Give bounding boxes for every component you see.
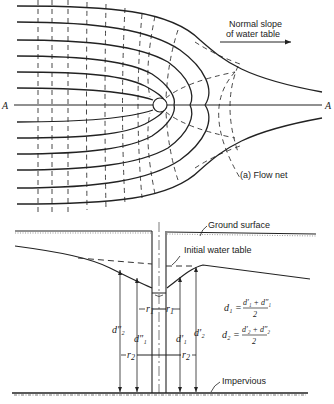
flow-net-panel: A A Normal slope of water table (a) Flow… <box>1 0 332 212</box>
initial-water-table-leader <box>172 256 180 265</box>
svg-text:d₂ =: d₂ = <box>222 329 240 340</box>
depth-arrows <box>118 267 198 392</box>
cross-section-panel: Ground surface Initial water table d″₂ d… <box>12 220 316 395</box>
r1-right-label: r1 <box>166 303 174 316</box>
impervious-label: Impervious <box>222 376 267 386</box>
svg-text:d′₂ + d″₂: d′₂ + d″₂ <box>242 325 270 334</box>
axis-label-left: A <box>1 100 9 111</box>
r1-left-label: r1 <box>146 303 154 316</box>
d1-prime-label: d′₁ <box>176 333 187 344</box>
svg-text:2: 2 <box>253 310 257 319</box>
ground-surface-leader <box>200 226 207 236</box>
initial-water-table-label: Initial water table <box>184 245 252 255</box>
slope-label-line2: of water table <box>226 29 280 39</box>
impervious-base <box>12 393 308 395</box>
drawdown-curve <box>15 246 152 288</box>
well-flow-net-figure: A A Normal slope of water table (a) Flow… <box>0 0 334 404</box>
r1-dimension: r1 r1 <box>139 303 180 316</box>
slope-label-line1: Normal slope <box>229 19 282 29</box>
r2-left-label: r2 <box>127 349 135 362</box>
impervious-leader <box>211 382 220 392</box>
ground-surface-label: Ground surface <box>208 220 270 230</box>
svg-text:d₁ =: d₁ = <box>224 302 242 313</box>
r2-right-label: r2 <box>182 349 190 362</box>
d2-prime-label: d′₂ <box>194 327 205 338</box>
svg-text:2: 2 <box>252 337 256 346</box>
equation-d2: d₂ = d′₂ + d″₂ 2 <box>222 325 270 346</box>
d2-double-prime-label: d″₂ <box>112 324 125 335</box>
svg-text:d′₁ + d″₁: d′₁ + d″₁ <box>243 298 271 307</box>
drawdown-curve-right <box>167 265 310 288</box>
r2-dimension: r2 r2 <box>121 349 196 362</box>
slope-arrow-icon <box>220 40 291 45</box>
well-casing <box>152 222 166 393</box>
well-circle <box>153 98 167 112</box>
equipotential-lines <box>38 0 240 212</box>
flow-net-caption: (a) Flow net <box>240 170 288 180</box>
d1-double-prime-label: d″₁ <box>134 333 147 344</box>
axis-label-right: A <box>324 100 332 111</box>
equation-d1: d₁ = d′₁ + d″₁ 2 <box>224 298 271 319</box>
